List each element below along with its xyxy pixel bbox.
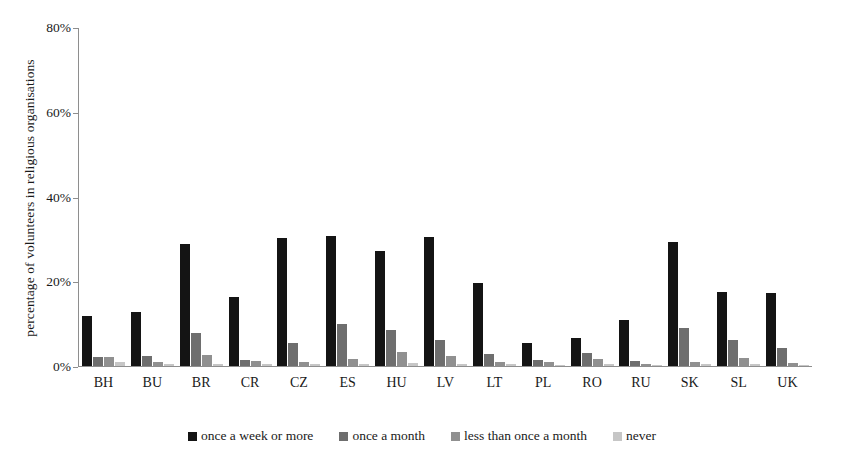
bar[interactable] [337,324,347,366]
chart-title [4,0,704,2]
bar-stack [326,28,369,366]
bar-stack [375,28,418,366]
bar[interactable] [571,338,581,366]
bar[interactable] [484,354,494,366]
bar[interactable] [191,333,201,366]
bar-stack [82,28,125,366]
bar[interactable] [153,362,163,366]
x-tick-label: RU [616,375,665,391]
bar[interactable] [164,364,174,366]
bar-stack [619,28,662,366]
x-tick-label: LT [470,375,519,391]
bar[interactable] [180,244,190,366]
bar[interactable] [593,359,603,366]
bar[interactable] [582,353,592,366]
bar[interactable] [446,356,456,366]
bar[interactable] [202,355,212,366]
y-tick-mark [73,282,78,283]
bar-group: SK [665,28,714,366]
bar[interactable] [348,359,358,366]
bar[interactable] [679,328,689,366]
bar[interactable] [277,238,287,366]
bar[interactable] [630,361,640,367]
legend-label: once a week or more [201,428,313,444]
bar[interactable] [115,362,125,366]
bar[interactable] [701,364,711,366]
bar[interactable] [299,362,309,366]
bar[interactable] [533,360,543,366]
x-tick-label: BU [128,375,177,391]
legend-item[interactable]: less than once a month [451,428,587,444]
bar-stack [522,28,565,366]
bar[interactable] [229,297,239,366]
bar[interactable] [641,364,651,366]
bar[interactable] [397,352,407,366]
bar[interactable] [375,251,385,366]
bar[interactable] [424,237,434,366]
bar[interactable] [777,348,787,366]
legend-item[interactable]: never [613,428,656,444]
bar[interactable] [131,312,141,366]
bar[interactable] [728,340,738,366]
bar-group: PL [519,28,568,366]
bar[interactable] [544,362,554,366]
y-tick-label: 40% [46,191,71,205]
bar-stack [180,28,223,366]
bar[interactable] [104,357,114,366]
bar[interactable] [82,316,92,366]
bar[interactable] [799,365,809,366]
x-tick-label: BR [177,375,226,391]
bar[interactable] [766,293,776,366]
y-tick-label: 80% [46,21,71,35]
bar[interactable] [506,364,516,366]
bar[interactable] [457,364,467,366]
bar[interactable] [522,343,532,366]
legend-label: never [626,428,656,444]
bar[interactable] [555,365,565,366]
legend-item[interactable]: once a month [339,428,425,444]
y-tick-label: 0% [53,360,71,374]
bar-group: BU [128,28,177,366]
bar[interactable] [668,242,678,366]
x-tick-label: UK [763,375,812,391]
bar[interactable] [750,364,760,366]
bar[interactable] [619,320,629,366]
plot-area: 0%20%40%60%80% BHBUBRCRCZESHULVLTPLRORUS… [78,28,812,367]
bar-groups: BHBUBRCRCZESHULVLTPLRORUSKSLUK [79,28,812,366]
bar[interactable] [93,357,103,366]
bar-stack [717,28,760,366]
x-tick-label: ES [323,375,372,391]
bar[interactable] [359,364,369,366]
bar[interactable] [310,364,320,366]
legend-swatch-icon [451,432,460,441]
x-tick-label: PL [519,375,568,391]
bar[interactable] [435,340,445,366]
bar[interactable] [690,362,700,366]
bar-group: HU [372,28,421,366]
bar[interactable] [604,364,614,366]
y-tick-mark [73,367,78,368]
bar[interactable] [262,364,272,366]
bar[interactable] [142,356,152,366]
bar[interactable] [251,361,261,366]
y-tick-mark [73,113,78,114]
bar-group: SL [714,28,763,366]
bar[interactable] [473,283,483,366]
bar[interactable] [326,236,336,366]
bar-stack [473,28,516,366]
bar[interactable] [717,292,727,366]
bar[interactable] [240,360,250,366]
bar[interactable] [739,358,749,366]
bar[interactable] [288,343,298,366]
bar[interactable] [652,365,662,366]
bar[interactable] [213,364,223,366]
x-tick-label: BH [79,375,128,391]
bar[interactable] [495,362,505,366]
bar-group: UK [763,28,812,366]
bar[interactable] [408,363,418,366]
bar[interactable] [386,330,396,366]
legend-swatch-icon [188,432,197,441]
legend-item[interactable]: once a week or more [188,428,313,444]
y-tick-mark [73,198,78,199]
bar[interactable] [788,363,798,366]
